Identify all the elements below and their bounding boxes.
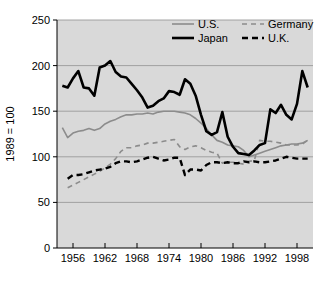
x-tick-label: 1998 (285, 252, 309, 264)
legend-label-uk: U.K. (268, 32, 289, 44)
legend-label-germany: Germany (268, 18, 314, 30)
x-tick-label: 1980 (189, 252, 213, 264)
x-tick-label: 1962 (93, 252, 117, 264)
line-chart: 0501001502002501956196219681974198019861… (0, 0, 334, 283)
legend-label-us: U.S. (198, 18, 219, 30)
plot-area-background (57, 20, 313, 248)
y-tick-label: 250 (32, 14, 50, 26)
chart-container: 0501001502002501956196219681974198019861… (0, 0, 334, 283)
x-tick-label: 1992 (253, 252, 277, 264)
legend-label-japan: Japan (198, 32, 228, 44)
y-axis-title: 1989 = 100 (4, 106, 16, 161)
x-tick-label: 1974 (157, 252, 181, 264)
y-tick-label: 100 (32, 151, 50, 163)
y-tick-label: 50 (38, 196, 50, 208)
x-tick-label: 1956 (61, 252, 85, 264)
x-tick-label: 1968 (125, 252, 149, 264)
y-tick-label: 200 (32, 60, 50, 72)
y-tick-label: 150 (32, 105, 50, 117)
y-tick-label: 0 (44, 242, 50, 254)
x-tick-label: 1986 (221, 252, 245, 264)
